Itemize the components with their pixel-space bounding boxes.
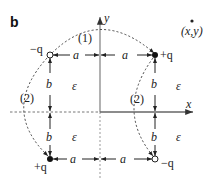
charge-label: −q: [30, 42, 43, 56]
dimension-a-label: a: [70, 152, 76, 166]
dimension-b-label: b: [46, 77, 52, 91]
y-axis-label: y: [103, 11, 110, 25]
medium-label: ε: [72, 79, 77, 93]
dimension-a-label: a: [120, 152, 126, 166]
path-1-label: (1): [78, 31, 92, 45]
charge-label: +q: [160, 48, 173, 62]
path-2-left-arc: [24, 58, 48, 156]
charge-label: +q: [34, 160, 47, 174]
path-2-left-label: (2): [20, 91, 34, 105]
dimension-b-label: b: [46, 130, 52, 144]
charge-negative-bottom-right: [152, 156, 158, 162]
charge-positive-top-right: [152, 52, 158, 58]
medium-label: ε: [176, 130, 181, 144]
path-2-right-label: (2): [130, 92, 144, 106]
axes: y x: [10, 11, 193, 180]
field-point: [190, 19, 193, 22]
panel-label: b: [10, 14, 19, 30]
charge-negative-top-left: [47, 52, 53, 58]
charge-configuration-diagram: b y x (x,y) (1) (2) (2) a a a a: [0, 0, 220, 180]
x-axis-label: x: [185, 97, 192, 111]
dimension-b: [50, 58, 155, 156]
dimension-b-label: b: [151, 130, 157, 144]
medium-label: ε: [72, 130, 77, 144]
medium-label: ε: [176, 79, 181, 93]
charge-label: −q: [161, 156, 174, 170]
dimension-a-label: a: [122, 48, 128, 62]
field-point-label: (x,y): [181, 24, 203, 38]
path-1-arc: [52, 30, 154, 54]
charge-positive-bottom-left: [47, 156, 53, 162]
dimension-b-label: b: [151, 77, 157, 91]
dimension-a-label: a: [73, 48, 79, 62]
